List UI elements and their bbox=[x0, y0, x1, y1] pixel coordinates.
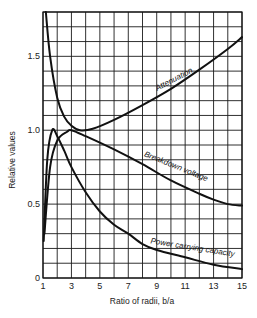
curve-breakdown-voltage bbox=[44, 130, 242, 234]
x-tick-label: 5 bbox=[97, 281, 102, 291]
y-axis-ticks: 00.51.01.5 bbox=[27, 51, 40, 283]
x-tick-label: 11 bbox=[180, 281, 189, 291]
y-tick-label: 0.5 bbox=[27, 199, 40, 209]
grid-lines bbox=[43, 12, 242, 278]
x-tick-label: 7 bbox=[126, 281, 131, 291]
x-tick-label: 9 bbox=[154, 281, 159, 291]
line-chart: AttenuationBreakdown voltagePower carryi… bbox=[0, 0, 257, 318]
x-tick-label: 13 bbox=[209, 281, 219, 291]
x-tick-label: 15 bbox=[237, 281, 247, 291]
x-axis-label: Ratio of radii, b/a bbox=[110, 296, 175, 306]
x-tick-label: 3 bbox=[69, 281, 74, 291]
curve-label: Attenuation bbox=[153, 66, 194, 94]
y-axis-label: Relative values bbox=[7, 131, 17, 189]
x-tick-label: 1 bbox=[40, 281, 45, 291]
y-tick-label: 1.0 bbox=[27, 125, 40, 135]
curve-label: Power carrying capacity bbox=[150, 236, 236, 258]
curve-label: Breakdown voltage bbox=[143, 149, 210, 183]
y-tick-label: 0 bbox=[35, 273, 40, 283]
x-axis-ticks: 13579111315 bbox=[40, 281, 247, 291]
y-tick-label: 1.5 bbox=[27, 51, 40, 61]
